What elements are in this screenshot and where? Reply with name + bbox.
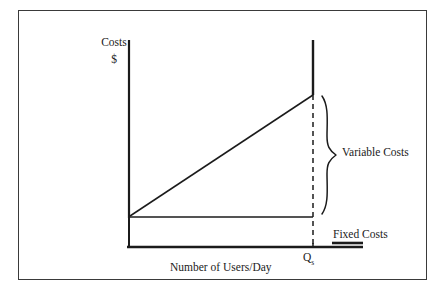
cost-behavior-figure: Costs $ Number of Users/Day Variable Cos… [0,0,447,297]
fixed-costs-label: Fixed Costs [333,228,388,241]
variable-costs-label: Variable Costs [342,146,409,159]
total-costs-diagonal-line [130,95,313,216]
y-axis-unit-label: $ [92,53,136,66]
qs-axis-label: Qs [303,251,314,267]
x-axis-title: Number of Users/Day [170,261,272,274]
variable-costs-brace-icon [322,96,336,214]
qs-subscript-letter: s [311,258,314,267]
y-axis-title: Costs [92,36,136,49]
